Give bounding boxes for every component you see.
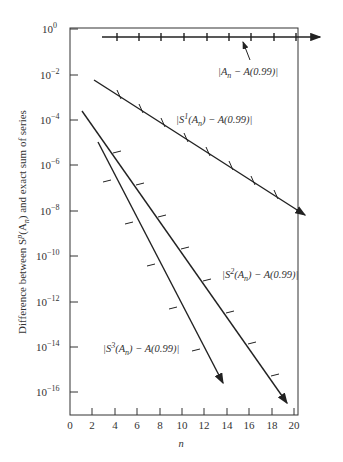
- svg-text:10−8: 10−8: [40, 203, 60, 217]
- y-tick-labels: 100 10−2 10−4 10−6 10−8 10−10 10−12 10−1…: [36, 21, 60, 398]
- svg-text:14: 14: [222, 419, 234, 431]
- svg-text:20: 20: [289, 419, 301, 431]
- svg-text:10−14: 10−14: [36, 339, 60, 353]
- svg-text:10−16: 10−16: [36, 384, 60, 398]
- svg-text:10−4: 10−4: [40, 112, 60, 126]
- svg-text:10−6: 10−6: [40, 157, 60, 171]
- svg-text:8: 8: [157, 419, 163, 431]
- svg-text:10: 10: [177, 419, 189, 431]
- svg-text:100: 100: [42, 21, 57, 35]
- series-tick-marks: [103, 90, 279, 376]
- label-s2: |S2(An) − A(0.99)|: [222, 267, 298, 283]
- svg-text:6: 6: [134, 419, 140, 431]
- series-an: [102, 33, 320, 60]
- svg-text:2: 2: [89, 419, 95, 431]
- svg-text:18: 18: [267, 419, 279, 431]
- x-tick-labels: 0 2 4 6 8 10 12 14 16 18 20: [67, 419, 300, 431]
- svg-text:10−12: 10−12: [36, 294, 60, 308]
- x-axis: [92, 408, 294, 415]
- chart-figure: 100 10−2 10−4 10−6 10−8 10−10 10−12 10−1…: [0, 0, 343, 462]
- y-axis-label: Difference between Sp(An) and exact sum …: [15, 110, 31, 334]
- svg-text:16: 16: [244, 419, 256, 431]
- svg-text:10−2: 10−2: [40, 67, 60, 81]
- svg-text:0: 0: [67, 419, 73, 431]
- x-axis-label: n: [178, 438, 183, 449]
- label-an: |An − A(0.99)|: [218, 66, 278, 80]
- svg-text:12: 12: [199, 419, 210, 431]
- series-s2: [82, 111, 287, 403]
- y-axis: [70, 29, 78, 392]
- svg-text:4: 4: [112, 419, 118, 431]
- label-s3: |S3(An) − A(0.99)|: [103, 341, 179, 357]
- svg-text:10−10: 10−10: [36, 248, 60, 262]
- label-s1: |S1(An) − A(0.99)|: [176, 112, 252, 128]
